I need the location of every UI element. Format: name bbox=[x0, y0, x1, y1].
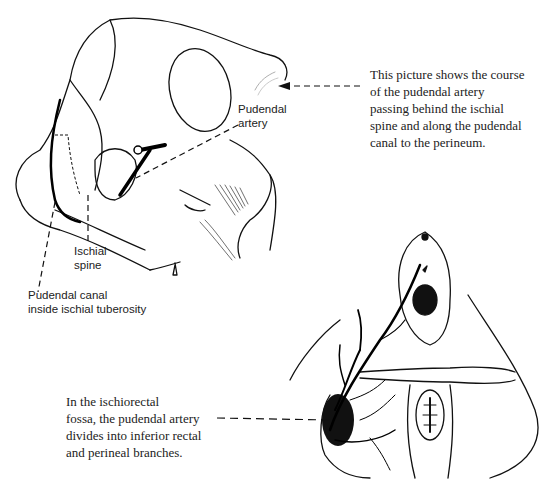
label-pudendal-canal: Pudendal canal inside ischial tuberosity bbox=[28, 288, 146, 316]
arrowhead-icon bbox=[278, 82, 290, 90]
leader-line-bottom bbox=[217, 418, 330, 420]
label-ischial-spine: Ischial spine bbox=[74, 244, 107, 272]
label-pudendal-artery: Pudendal artery bbox=[238, 102, 287, 130]
pudendal-artery-vessel bbox=[51, 100, 165, 222]
perineum-illustration bbox=[290, 232, 538, 478]
pudendal-canal-outline bbox=[55, 135, 80, 195]
caption-top: This picture shows the course of the pud… bbox=[370, 66, 525, 151]
caption-bottom: In the ischiorectal fossa, the pudendal … bbox=[66, 393, 201, 461]
